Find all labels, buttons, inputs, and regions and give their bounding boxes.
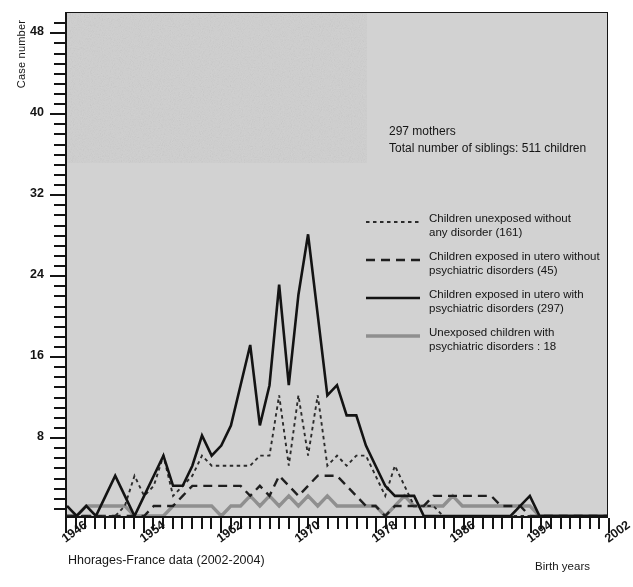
- y-axis-major-tick: [50, 32, 67, 34]
- y-axis-minor-tick: [54, 285, 67, 287]
- x-axis-minor-tick: [288, 518, 290, 529]
- legend-label-line-1: Children unexposed without: [429, 211, 571, 225]
- x-axis-minor-tick: [443, 518, 445, 529]
- x-axis-minor-tick: [259, 518, 261, 529]
- legend-item: Children exposed in utero withoutpsychia…: [365, 249, 608, 277]
- y-axis-minor-tick: [54, 407, 67, 409]
- y-axis-minor-tick: [54, 235, 67, 237]
- x-axis-minor-tick: [133, 518, 135, 529]
- legend-label-line-1: Unexposed children with: [429, 325, 556, 339]
- legend-label-line-2: psychiatric disorders (45): [429, 263, 600, 277]
- y-axis-tick-label: 24: [4, 267, 44, 281]
- legend-label: Children exposed in utero withoutpsychia…: [429, 249, 600, 277]
- x-axis-minor-tick: [210, 518, 212, 529]
- x-axis-minor-tick: [482, 518, 484, 529]
- x-axis-minor-tick: [191, 518, 193, 529]
- y-axis-minor-tick: [54, 336, 67, 338]
- x-axis-minor-tick: [172, 518, 174, 529]
- y-axis-minor-tick: [54, 265, 67, 267]
- y-axis-minor-tick: [54, 326, 67, 328]
- y-axis-minor-tick: [54, 306, 67, 308]
- y-axis-minor-tick: [54, 255, 67, 257]
- y-axis-minor-tick: [54, 164, 67, 166]
- y-axis-minor-tick: [54, 73, 67, 75]
- x-axis-minor-tick: [114, 518, 116, 529]
- x-axis-minor-tick: [94, 518, 96, 529]
- x-axis-minor-tick: [278, 518, 280, 529]
- y-axis-minor-tick: [54, 93, 67, 95]
- annotation-line-2: Total number of siblings: 511 children: [389, 140, 586, 157]
- legend-label-line-2: psychiatric disorders : 18: [429, 339, 556, 353]
- y-axis-minor-tick: [54, 376, 67, 378]
- y-axis-minor-tick: [54, 295, 67, 297]
- legend-label: Children unexposed withoutany disorder (…: [429, 211, 571, 239]
- y-axis-minor-tick: [54, 427, 67, 429]
- x-axis-minor-tick: [356, 518, 358, 529]
- y-axis-title: Case number: [15, 0, 27, 109]
- x-axis-minor-tick: [104, 518, 106, 529]
- y-axis-minor-tick: [54, 103, 67, 105]
- x-axis-minor-tick: [337, 518, 339, 529]
- y-axis-minor-tick: [54, 346, 67, 348]
- legend-item: Unexposed children withpsychiatric disor…: [365, 325, 608, 353]
- y-axis-minor-tick: [54, 467, 67, 469]
- y-axis-tick-label: 16: [4, 348, 44, 362]
- y-axis-major-tick: [50, 356, 67, 358]
- y-axis-minor-tick: [54, 42, 67, 44]
- x-axis-minor-tick: [327, 518, 329, 529]
- legend-label-line-2: psychiatric disorders (297): [429, 301, 584, 315]
- x-axis-tick-label: 1962: [214, 518, 245, 546]
- y-axis-minor-tick: [54, 488, 67, 490]
- x-axis-minor-tick: [366, 518, 368, 529]
- y-axis-major-tick: [50, 275, 67, 277]
- legend-line-swatch: [365, 291, 421, 305]
- annotation-line-1: 297 mothers: [389, 123, 586, 140]
- y-axis-major-tick: [50, 437, 67, 439]
- y-axis-minor-tick: [54, 133, 67, 135]
- x-axis-minor-tick: [269, 518, 271, 529]
- x-axis-minor-tick: [598, 518, 600, 529]
- y-axis-minor-tick: [54, 397, 67, 399]
- y-axis-minor-tick: [54, 22, 67, 24]
- y-axis-minor-tick: [54, 417, 67, 419]
- x-axis-minor-tick: [424, 518, 426, 529]
- x-axis-tick-label: 1986: [447, 518, 478, 546]
- chart-legend: Children unexposed withoutany disorder (…: [365, 211, 608, 363]
- x-axis-minor-tick: [521, 518, 523, 529]
- source-note: Hhorages-France data (2002-2004): [68, 553, 265, 567]
- y-axis-minor-tick: [54, 457, 67, 459]
- y-axis-major-tick: [50, 113, 67, 115]
- y-axis-tick-label: 48: [4, 24, 44, 38]
- y-axis-minor-tick: [54, 508, 67, 510]
- legend-line-swatch: [365, 215, 421, 229]
- legend-label-line-1: Children exposed in utero with: [429, 287, 584, 301]
- y-axis-minor-tick: [54, 123, 67, 125]
- y-axis-minor-tick: [54, 366, 67, 368]
- x-axis-minor-tick: [181, 518, 183, 529]
- y-axis-minor-tick: [54, 447, 67, 449]
- series-line: [67, 395, 607, 516]
- legend-line-swatch: [365, 253, 421, 267]
- y-axis-minor-tick: [54, 316, 67, 318]
- y-axis-tick-label: 40: [4, 105, 44, 119]
- x-axis-tick-label: 1954: [137, 518, 168, 546]
- legend-label: Unexposed children withpsychiatric disor…: [429, 325, 556, 353]
- legend-line-swatch: [365, 329, 421, 343]
- y-axis-tick-label: 8: [4, 429, 44, 443]
- y-axis-minor-tick: [54, 144, 67, 146]
- legend-label-line-2: any disorder (161): [429, 225, 571, 239]
- plot-area: 297 mothers Total number of siblings: 51…: [65, 12, 608, 518]
- x-axis-minor-tick: [404, 518, 406, 529]
- x-axis-title: Birth years: [535, 560, 590, 572]
- y-axis-minor-tick: [54, 174, 67, 176]
- x-axis-minor-tick: [123, 518, 125, 529]
- y-axis-minor-tick: [54, 83, 67, 85]
- y-axis-minor-tick: [54, 63, 67, 65]
- x-axis-tick-label: 1970: [292, 518, 323, 546]
- annotation-block: 297 mothers Total number of siblings: 51…: [389, 123, 586, 157]
- legend-label: Children exposed in utero withpsychiatri…: [429, 287, 584, 315]
- y-axis-minor-tick: [54, 478, 67, 480]
- y-axis-minor-tick: [54, 225, 67, 227]
- x-axis-minor-tick: [434, 518, 436, 529]
